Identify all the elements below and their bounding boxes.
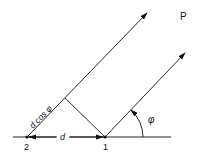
point-2-dot <box>25 135 28 138</box>
point-1-dot <box>103 135 106 138</box>
label-angle: φ <box>148 114 155 125</box>
label-point-2: 2 <box>24 142 29 152</box>
label-point-1: 1 <box>103 142 108 152</box>
label-p: P <box>180 11 187 22</box>
ray-from-point-1 <box>105 53 185 137</box>
angle-arc <box>131 110 143 137</box>
perpendicular-line <box>65 98 105 137</box>
diagram-canvas: P 2 1 d φ d cos φ <box>0 0 198 155</box>
label-projection: d cos φ <box>27 103 54 131</box>
